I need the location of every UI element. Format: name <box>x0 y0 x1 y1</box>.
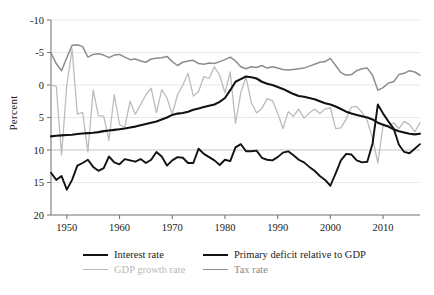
legend-label: Tax rate <box>234 264 268 275</box>
y-tick-label: 10 <box>34 145 45 156</box>
x-tick-label: 1960 <box>109 222 130 233</box>
y-tick-label: 0 <box>39 80 44 91</box>
y-tick-label: -10 <box>30 15 44 26</box>
legend-swatch-line-icon <box>203 269 228 270</box>
legend-row-2: GDP growth rate Tax rate <box>0 264 434 275</box>
legend-item-primary-deficit[interactable]: Primary deficit relative to GDP <box>203 249 366 260</box>
x-tick-label: 1990 <box>267 222 288 233</box>
x-tick-label: 1950 <box>56 222 77 233</box>
legend-swatch-line-icon <box>83 254 108 256</box>
legend-row-1: Interest rate Primary deficit relative t… <box>0 249 434 260</box>
legend-swatch-line-icon <box>83 269 108 270</box>
chart-plot-area: 20151050-5-10195019601970198019902000201… <box>0 0 434 249</box>
legend-item-gdp-growth-rate[interactable]: GDP growth rate <box>83 264 203 275</box>
legend-item-interest-rate[interactable]: Interest rate <box>83 249 203 260</box>
x-tick-label: 1980 <box>214 222 235 233</box>
chart-container: Percent 20151050-5-101950196019701980199… <box>0 0 434 295</box>
y-tick-label: 15 <box>34 177 45 188</box>
chart-legend: Interest rate Primary deficit relative t… <box>0 249 434 275</box>
legend-swatch-line-icon <box>203 254 228 256</box>
legend-label: GDP growth rate <box>114 264 185 275</box>
legend-label: Primary deficit relative to GDP <box>234 249 366 260</box>
legend-label: Interest rate <box>114 249 164 260</box>
y-tick-label: 20 <box>34 210 45 221</box>
y-tick-label: 5 <box>39 112 44 123</box>
series-line-gdp-growth-rate <box>51 49 420 163</box>
x-tick-label: 1970 <box>162 222 183 233</box>
x-tick-label: 2000 <box>320 222 341 233</box>
legend-item-tax-rate[interactable]: Tax rate <box>203 264 268 275</box>
x-tick-label: 2010 <box>373 222 394 233</box>
y-tick-label: -5 <box>35 47 44 58</box>
